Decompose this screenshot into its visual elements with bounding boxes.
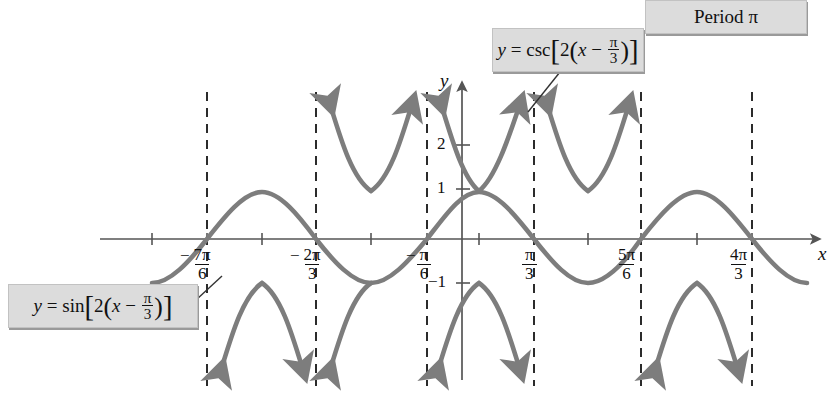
figure-canvas: − 7π 6 − 2π 3 − π 6 π 3 5π 6 <box>0 0 838 405</box>
graph-drawing <box>0 0 838 405</box>
period-value: π <box>748 6 758 28</box>
x-tick-label--2pi-3: − 2π 3 <box>290 246 324 283</box>
period-word: Period <box>694 6 744 28</box>
cosecant-upper-branches <box>330 104 629 191</box>
x-tick-label--7pi-6: − 7π 6 <box>180 246 214 283</box>
sin-equation-label: y = sin [ 2 ( x − π 3 ) ] <box>8 284 198 328</box>
y-tick-label-1: 1 <box>437 178 446 198</box>
x-axis-name: x <box>818 243 826 265</box>
y-axis-name: y <box>440 70 448 92</box>
period-label: Period π <box>645 0 807 34</box>
csc-equation-label: y = csc [ 2 ( x − π 3 ) ] <box>492 28 644 72</box>
y-axis <box>456 86 470 380</box>
x-tick-label-4pi-3: 4π 3 <box>726 246 750 283</box>
cosecant-lower-branches <box>221 283 738 370</box>
y-tick-label--1: −1 <box>428 272 446 292</box>
x-tick-label-pi-3: π 3 <box>521 246 537 283</box>
y-tick-label-2: 2 <box>437 134 446 154</box>
x-tick-label-5pi-6: 5π 6 <box>614 246 638 283</box>
